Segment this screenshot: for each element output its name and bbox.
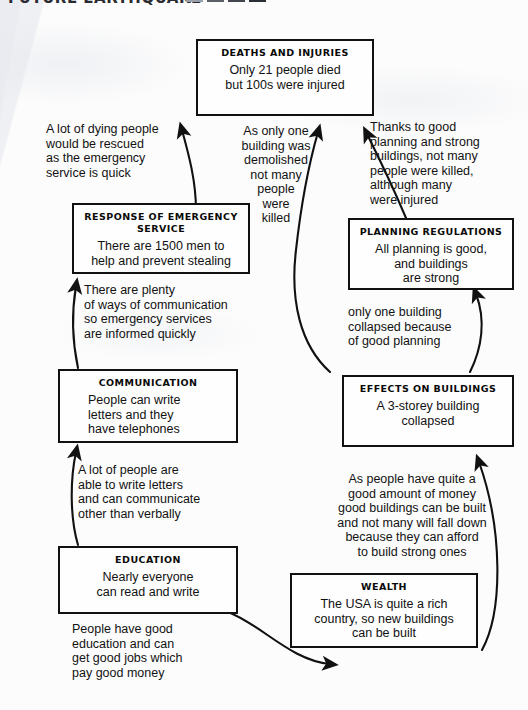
node-title: WEALTH [298,581,470,593]
node-title: COMMUNICATION [66,377,230,389]
node-title: EDUCATION [66,554,230,566]
node-title: EFFECTS ON BUILDINGS [350,383,506,395]
node-education[interactable]: EDUCATION Nearly everyone can read and w… [58,546,238,614]
edge-label-planning-to-deaths: Thanks to good planning and strong build… [370,120,528,207]
header-block-marks [186,0,266,2]
node-body: A 3-storey building collapsed [350,399,506,428]
node-body: People can write letters and they have t… [66,393,230,437]
edge-label-education-to-wealth: People have good education and can get g… [72,622,252,680]
diagram-page: FUTURE EARTHQUAKE [0,0,528,710]
page-header-strip: FUTURE EARTHQUAKE [0,0,528,11]
edge-label-wealth-to-buildings: As people have quite a good amount of mo… [314,472,510,559]
node-communication[interactable]: COMMUNICATION People can write letters a… [58,369,238,443]
edge-label-buildings-to-deaths: As only one building was demolished not … [234,124,318,226]
node-body: There are 1500 men to help and prevent s… [80,239,242,268]
node-planning-regulations[interactable]: PLANNING REGULATIONS All planning is goo… [348,218,514,290]
edge-communication-to-emergency [73,286,78,368]
node-title: DEATHS AND INJURIES [204,47,366,59]
node-title: RESPONSE OF EMERGENCY SERVICE [80,211,242,235]
page-header-title: FUTURE EARTHQUAKE [8,0,202,7]
node-body: Only 21 people died but 100s were injure… [204,63,366,92]
node-body: Nearly everyone can read and write [66,570,230,599]
node-deaths-and-injuries[interactable]: DEATHS AND INJURIES Only 21 people died … [196,39,374,116]
node-title: PLANNING REGULATIONS [356,226,506,238]
edge-label-education-to-communication: A lot of people are able to write letter… [78,463,248,521]
edge-label-communication-to-emergency: There are plenty of ways of communicatio… [84,283,262,341]
node-response-of-emergency-service[interactable]: RESPONSE OF EMERGENCY SERVICE There are … [72,203,250,274]
node-body: The USA is quite a rich country, so new … [298,597,470,641]
edge-label-emergency-to-deaths: A lot of dying people would be rescued a… [46,122,198,180]
edge-label-buildings-to-planning: only one building collapsed because of g… [348,305,476,349]
node-body: All planning is good, and buildings are … [356,242,506,286]
node-effects-on-buildings[interactable]: EFFECTS ON BUILDINGS A 3-storey building… [342,375,514,447]
node-wealth[interactable]: WEALTH The USA is quite a rich country, … [290,573,478,648]
